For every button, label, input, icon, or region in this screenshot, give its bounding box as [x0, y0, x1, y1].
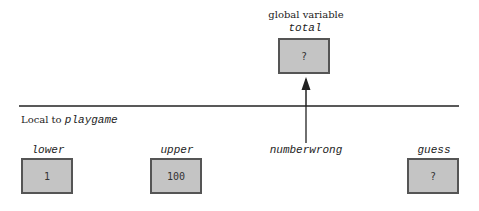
total-variable-name: total: [250, 22, 360, 34]
scope-label: Local to playgame: [21, 114, 118, 126]
guess-variable-value: ?: [430, 171, 436, 182]
global-variable-heading: global variable: [258, 9, 354, 20]
lower-variable-name: lower: [0, 144, 103, 156]
guess-variable-box: ?: [407, 158, 459, 194]
guess-variable-name: guess: [379, 144, 479, 156]
total-variable-value: ?: [301, 51, 307, 62]
upper-variable-value: 100: [167, 171, 185, 182]
scope-function-name: playgame: [65, 114, 118, 126]
upper-variable-name: upper: [122, 144, 232, 156]
scope-label-prefix: Local to: [21, 114, 65, 125]
arrowhead-icon: [302, 77, 311, 90]
lower-variable-box: 1: [21, 158, 73, 194]
numberwrong-variable-name: numberwrong: [251, 144, 361, 156]
total-variable-box: ?: [278, 38, 330, 74]
upper-variable-box: 100: [150, 158, 202, 194]
lower-variable-value: 1: [44, 171, 50, 182]
